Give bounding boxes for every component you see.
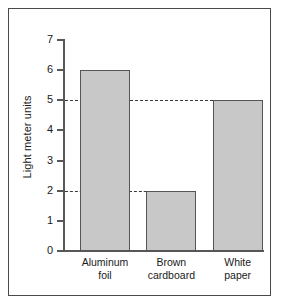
y-tick-mark	[57, 99, 64, 101]
y-tick-mark	[57, 220, 64, 222]
y-tick-mark	[57, 39, 64, 41]
y-tick-mark	[57, 69, 64, 71]
y-tick-mark	[57, 160, 64, 162]
y-tick-label: 6	[25, 64, 53, 75]
x-axis-label: Whitepaper	[198, 256, 278, 281]
bar-chart: Light meter units 01234567 AluminumfoilB…	[9, 9, 272, 297]
chart-frame: Light meter units 01234567 AluminumfoilB…	[8, 8, 271, 296]
y-tick-label: 2	[25, 185, 53, 196]
x-axis-label-line2: paper	[198, 269, 278, 282]
bar	[213, 100, 263, 251]
y-tick-label: 0	[25, 245, 53, 256]
bar	[146, 191, 196, 251]
y-tick-label: 1	[25, 215, 53, 226]
y-tick-label: 3	[25, 155, 53, 166]
y-tick-mark	[57, 250, 64, 252]
x-axis-label-line1: White	[198, 256, 278, 269]
y-tick-label: 7	[25, 34, 53, 45]
y-tick-label: 4	[25, 124, 53, 135]
y-tick-label: 5	[25, 94, 53, 105]
y-tick-mark	[57, 190, 64, 192]
y-tick-mark	[57, 129, 64, 131]
bar	[80, 70, 130, 251]
